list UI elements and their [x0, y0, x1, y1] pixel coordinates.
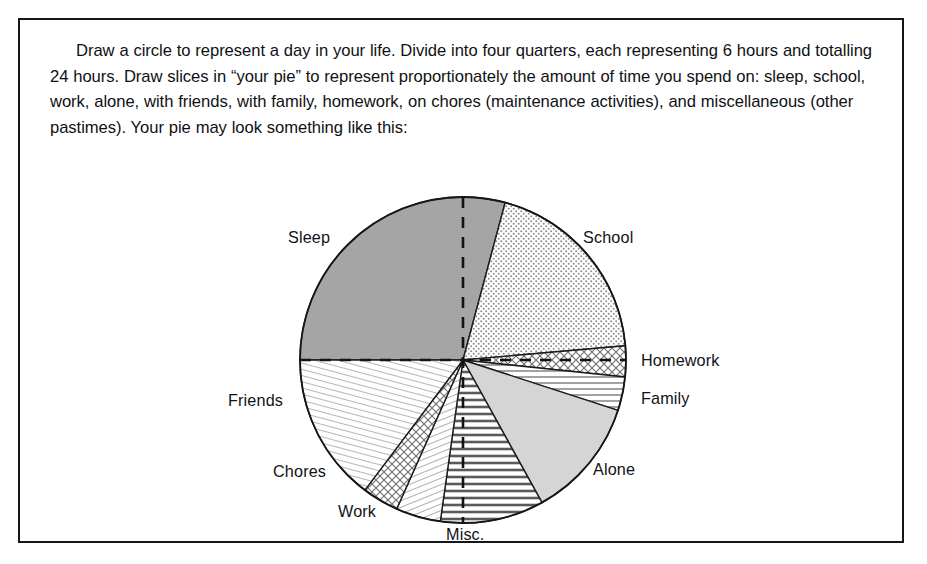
- pie-label-school: School: [583, 228, 633, 247]
- pie-label-work: Work: [338, 502, 376, 521]
- pie-label-sleep: Sleep: [288, 228, 330, 247]
- pie-chart-svg: [20, 20, 904, 543]
- figure-frame: Draw a circle to represent a day in your…: [18, 18, 904, 543]
- pie-chart: SleepSchoolHomeworkFamilyAloneMisc.WorkC…: [20, 20, 904, 543]
- pie-label-alone: Alone: [593, 460, 635, 479]
- pie-label-misc: Misc.: [446, 525, 485, 543]
- pie-label-friends: Friends: [228, 391, 283, 410]
- pie-label-chores: Chores: [273, 462, 326, 481]
- pie-label-family: Family: [641, 389, 690, 408]
- pie-label-homework: Homework: [641, 351, 720, 370]
